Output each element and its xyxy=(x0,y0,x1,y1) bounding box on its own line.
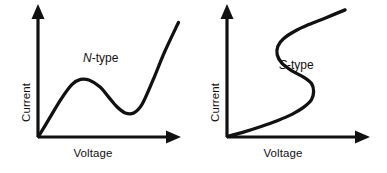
n-type-curve-label: N-type xyxy=(83,51,118,65)
s-type-x-axis-arrow-icon xyxy=(355,131,370,144)
n-type-y-axis-label: Current xyxy=(20,83,32,122)
s-type-curve xyxy=(228,10,346,137)
s-type-y-axis-label: Current xyxy=(209,83,221,122)
n-type-x-axis-label: Voltage xyxy=(48,147,138,159)
n-type-y-axis-arrow-icon xyxy=(32,4,45,19)
s-type-curve-label-suffix: -type xyxy=(287,58,314,72)
panel-n-type: Current Voltage N-type xyxy=(0,0,193,173)
panel-s-type: Current Voltage S-type xyxy=(193,0,387,173)
n-type-curve xyxy=(39,22,179,136)
n-type-curve-label-suffix: -type xyxy=(92,51,119,65)
n-type-curve-label-symbol: N xyxy=(83,51,92,65)
s-type-y-axis-arrow-icon xyxy=(221,4,234,19)
s-type-curve-label-symbol: S xyxy=(279,58,287,72)
n-type-x-axis-arrow-icon xyxy=(166,131,181,144)
s-type-curve-label: S-type xyxy=(279,58,314,72)
iv-characteristics-figure: Current Voltage N-type Current Voltage S… xyxy=(0,0,387,173)
s-type-x-axis-label: Voltage xyxy=(238,147,328,159)
